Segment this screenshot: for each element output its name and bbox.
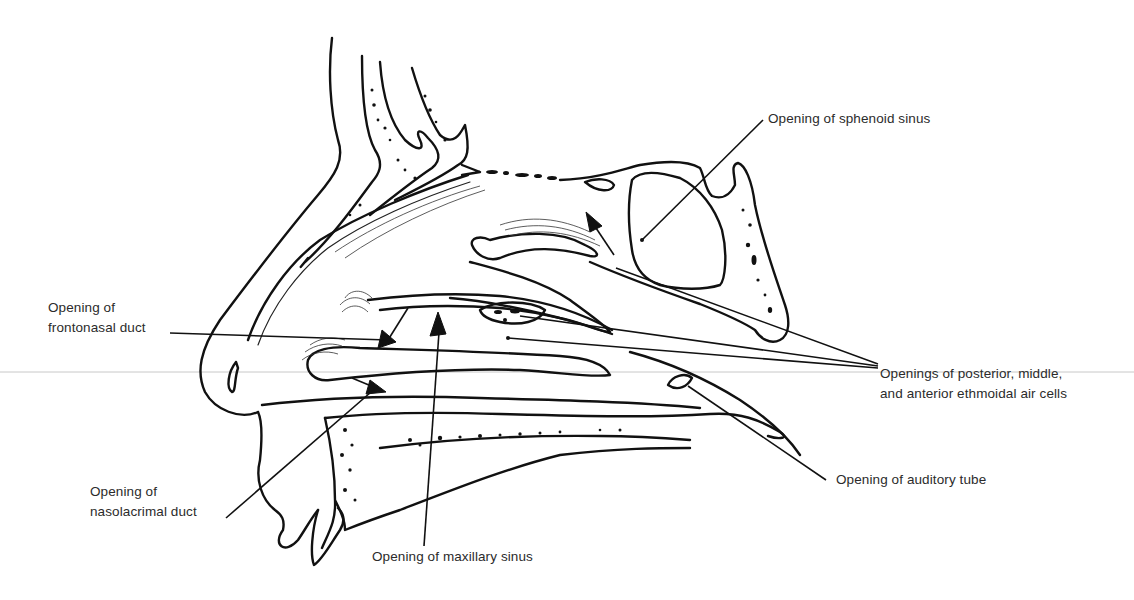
label-frontonasal-duct: Opening of frontonasal duct <box>48 298 146 338</box>
label-line: Opening of auditory tube <box>836 470 986 490</box>
agger-nasi-hatching <box>340 291 372 312</box>
label-line: frontonasal duct <box>48 318 146 338</box>
frontal-sinus-wall <box>395 68 468 200</box>
label-line: Opening of <box>90 482 197 502</box>
anatomy-diagram: Opening of sphenoid sinus Opening of fro… <box>0 0 1134 600</box>
hard-palate-lower <box>380 436 690 448</box>
maxillary-arrowhead <box>430 312 446 336</box>
label-line: Opening of maxillary sinus <box>372 547 533 567</box>
label-maxillary-sinus: Opening of maxillary sinus <box>372 547 533 567</box>
nose-profile-outline <box>200 38 340 415</box>
superior-concha-hatching <box>500 219 600 246</box>
sphenoid-bone-texture <box>742 209 773 314</box>
leader-sphenoid <box>642 120 763 240</box>
label-ethmoidal-air-cells: Openings of posterior, middle, and anter… <box>880 364 1067 404</box>
label-sphenoid-sinus: Opening of sphenoid sinus <box>768 109 930 129</box>
label-auditory-tube: Opening of auditory tube <box>836 470 986 490</box>
nostril-outline <box>229 362 238 392</box>
hard-palate-upper <box>325 413 784 438</box>
upper-lip-outline <box>258 412 318 547</box>
label-nasolacrimal-duct: Opening of nasolacrimal duct <box>90 482 197 522</box>
leader-ethmoid-anterior <box>508 338 878 368</box>
label-line: and anterior ethmoidal air cells <box>880 384 1067 404</box>
label-line: Opening of sphenoid sinus <box>768 109 930 129</box>
label-line: Openings of posterior, middle, <box>880 364 1067 384</box>
cribriform-left-spine <box>462 165 480 175</box>
frontal-bone-outline <box>370 62 438 215</box>
nasal-floor <box>262 397 700 408</box>
label-line: nasolacrimal duct <box>90 502 197 522</box>
cribriform-plate-dashes <box>486 170 557 180</box>
inferior-concha <box>307 347 610 380</box>
frontonasal-arrow-shaft <box>388 308 408 340</box>
nasal-bone-outline <box>301 56 380 267</box>
sphenoid-sinus-cavity <box>629 173 725 289</box>
sphenoid-anterior-recess <box>585 179 614 190</box>
sphenoid-drainage-arrowhead <box>586 212 602 232</box>
leader-maxillary <box>424 318 440 546</box>
leader-nasolacrimal <box>226 386 378 518</box>
leader-auditory <box>688 386 826 480</box>
sphenoid-drainage-arrow-shaft <box>596 228 614 255</box>
leader-sphenoid-end <box>640 238 644 242</box>
label-line: Opening of <box>48 298 146 318</box>
leader-frontonasal <box>170 333 388 340</box>
